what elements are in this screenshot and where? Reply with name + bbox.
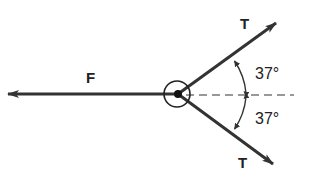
tension-lower-arrow [178,94,273,164]
knot-dot-icon [174,90,182,98]
angle-arc-lower [235,97,247,129]
angle-arc-upper [235,61,247,93]
tension-upper-arrow [178,23,276,94]
label-tension-upper: T [240,15,249,32]
label-force-f: F [86,69,95,86]
force-diagram: F T T 37° 37° [0,0,311,182]
label-angle-lower: 37° [255,110,279,127]
label-tension-lower: T [238,154,247,171]
label-angle-upper: 37° [255,65,279,82]
